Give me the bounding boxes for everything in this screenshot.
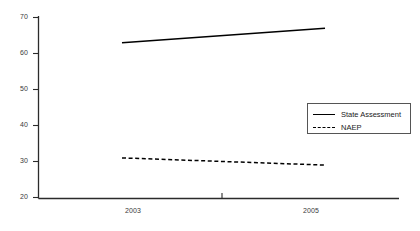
- x-tick-label-2003: 2003: [108, 207, 158, 214]
- legend-label-state-assessment: State Assessment: [341, 111, 401, 119]
- y-tick-label-20: 20: [6, 193, 28, 200]
- series-line-naep: [122, 158, 325, 165]
- x-tick-label-2005: 2005: [286, 207, 336, 214]
- series-line-state-assessment: [122, 28, 325, 42]
- chart-legend: State Assessment NAEP: [307, 103, 411, 134]
- line-chart: 70 60 50 40 30 20 2003 2005 State Assess…: [0, 0, 420, 231]
- y-tick-label-70: 70: [6, 13, 28, 20]
- solid-line-key-icon: [313, 114, 335, 115]
- y-tick-label-40: 40: [6, 121, 28, 128]
- legend-label-naep: NAEP: [341, 124, 361, 132]
- y-tick-label-50: 50: [6, 85, 28, 92]
- dashed-line-key-icon: [313, 127, 335, 128]
- legend-item-naep: NAEP: [313, 121, 404, 134]
- y-tick-label-60: 60: [6, 49, 28, 56]
- y-tick-label-30: 30: [6, 157, 28, 164]
- legend-item-state-assessment: State Assessment: [313, 108, 404, 121]
